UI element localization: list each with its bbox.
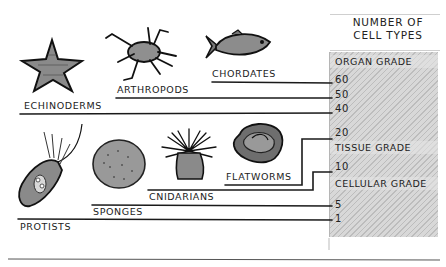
label-cnidarians: CNIDARIANS <box>149 192 214 202</box>
label-flatworms: FLATWORMS <box>226 172 292 182</box>
label-chordates: CHORDATES <box>212 69 276 79</box>
bottom-rule <box>8 259 440 260</box>
sponge-icon <box>90 137 148 193</box>
flatworm-icon <box>230 120 286 166</box>
label-protists: PROTISTS <box>20 222 71 232</box>
crab-icon <box>102 22 182 82</box>
protists-line <box>18 219 332 220</box>
label-echinoderms: ECHINODERMS <box>24 101 102 111</box>
fish-icon <box>202 28 274 66</box>
sea-anemone-icon <box>158 127 220 183</box>
label-sponges: SPONGES <box>93 207 143 217</box>
echinoderms-line <box>20 113 332 114</box>
label-arthropods: ARTHROPODS <box>117 85 189 95</box>
starfish-icon <box>18 35 88 95</box>
protist-icon <box>14 122 92 212</box>
chordates-line <box>212 82 332 83</box>
